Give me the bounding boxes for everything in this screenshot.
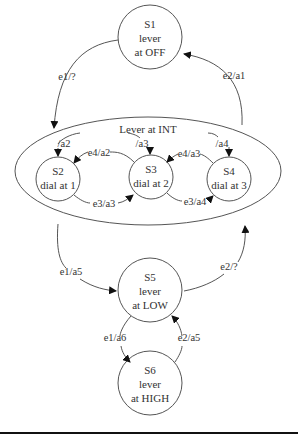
- transition-label: e4/a2: [88, 147, 111, 158]
- state-s1-line2: lever: [139, 32, 161, 44]
- transition-s1-to-int: e1/?: [54, 40, 118, 128]
- transition-label: /a4: [216, 138, 230, 149]
- state-s2-id: S2: [52, 165, 64, 177]
- transition-label: /a2: [58, 138, 71, 149]
- state-s3: S3 dial at 2: [129, 155, 173, 199]
- state-s5-line2: lever: [139, 285, 161, 297]
- transition-label: e2/a1: [223, 70, 246, 81]
- state-s6-line2: lever: [139, 378, 161, 390]
- transition-label: e1/a5: [60, 266, 83, 277]
- transition-label: e3/a3: [93, 198, 116, 209]
- transition-entry-s2: /a2: [58, 133, 80, 156]
- transition-label: e3/a4: [184, 196, 207, 207]
- state-s1: S1 lever at OFF: [118, 5, 182, 69]
- transition-s2-to-s3: e3/a3: [74, 195, 133, 209]
- state-s1-line3: at OFF: [135, 46, 166, 58]
- state-diagram: Lever at INT S1 lever at OFF S2 dial at …: [0, 0, 298, 440]
- state-s5-line3: at LOW: [132, 299, 168, 311]
- transition-label: /a3: [136, 138, 149, 149]
- state-s3-id: S3: [145, 163, 157, 175]
- state-s1-id: S1: [144, 18, 156, 30]
- transition-label: e2/?: [220, 261, 238, 272]
- transition-s3-to-s4: e3/a4: [167, 193, 213, 207]
- transition-label: e4/a3: [178, 148, 201, 159]
- transition-entry-s3: /a3: [128, 133, 150, 154]
- state-s5-id: S5: [144, 271, 156, 283]
- transition-int-to-s1: e2/a1: [184, 54, 245, 125]
- state-s6: S6 lever at HIGH: [118, 351, 182, 415]
- transition-label: e1/a6: [104, 332, 127, 343]
- transition-s3-to-s2: e4/a2: [74, 147, 134, 163]
- transition-s6-to-s5: e2/a5: [172, 316, 200, 362]
- state-s2-line2: dial at 1: [40, 179, 75, 191]
- superstate-label: Lever at INT: [119, 123, 177, 135]
- state-s6-id: S6: [144, 364, 156, 376]
- state-s4-line2: dial at 3: [211, 179, 247, 191]
- transition-entry-s4: /a4: [208, 133, 229, 156]
- state-s6-line3: at HIGH: [131, 392, 169, 404]
- state-s3-line2: dial at 2: [133, 177, 168, 189]
- transition-s5-to-s6: e1/a6: [104, 316, 131, 362]
- state-s4-id: S4: [223, 165, 235, 177]
- state-s2: S2 dial at 1: [36, 157, 80, 201]
- transition-int-to-s5: e1/a5: [57, 224, 116, 291]
- state-s4: S4 dial at 3: [207, 157, 251, 201]
- transition-label: e1/?: [58, 71, 76, 82]
- transition-s5-to-int: e2/?: [184, 226, 245, 291]
- transition-s4-to-s3: e4/a3: [167, 148, 213, 163]
- state-s5: S5 lever at LOW: [118, 258, 182, 322]
- transition-label: e2/a5: [178, 332, 201, 343]
